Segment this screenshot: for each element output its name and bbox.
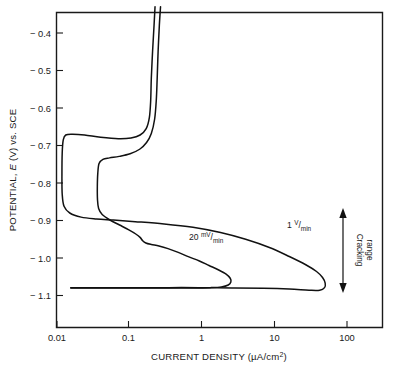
x-axis-tick-labels: 0.01 0.1 1 10 100 [48, 333, 355, 343]
y-tick-label: − 1.0 [30, 254, 51, 264]
y-axis-tick-labels: − 0.4 − 0.5 − 0.6 − 0.7 − 0.8 − 0.9 − 1.… [30, 29, 51, 302]
cracking-range-label-line1: Cracking [355, 234, 365, 267]
curve-label-20mv: 20 mV/min [189, 231, 224, 244]
y-tick-label: − 0.6 [30, 104, 51, 114]
y-tick-label: − 1.1 [30, 291, 51, 301]
y-tick-label: − 0.9 [30, 216, 51, 226]
curve-label-denominator: min [213, 237, 224, 244]
arrow-up-icon [339, 208, 346, 218]
x-tick-label: 100 [339, 333, 355, 343]
y-tick-label: − 0.5 [30, 66, 51, 76]
curve-label-1v: 1 V/min [287, 219, 312, 232]
y-tick-label: − 0.4 [30, 29, 51, 39]
x-axis-ticks [57, 321, 347, 328]
y-tick-label: − 0.7 [30, 141, 51, 151]
x-tick-label: 1 [199, 333, 204, 343]
curve-label-denominator: min [301, 225, 312, 232]
plot-frame [57, 13, 383, 328]
x-tick-label: 10 [269, 333, 279, 343]
svg-text:1 V/min: 1 V/min [287, 219, 312, 232]
x-axis-title: CURRENT DENSITY (µA/cm2) [151, 351, 287, 362]
cracking-range-label-line2: range [365, 239, 375, 261]
y-axis-title: POTENTIAL, E (V) vs. SCE [7, 109, 18, 232]
svg-text:20 mV/min: 20 mV/min [189, 231, 224, 244]
curve-20-mv-per-min [71, 7, 231, 288]
curve-group [62, 7, 325, 291]
x-tick-label: 0.01 [48, 333, 66, 343]
chart-svg: 0.01 0.1 1 10 100 − 0.4 − 0.5 − 0.6 − 0.… [0, 0, 397, 373]
electrochemical-polarization-chart: 0.01 0.1 1 10 100 − 0.4 − 0.5 − 0.6 − 0.… [0, 0, 397, 373]
curve-1-v-per-min [62, 7, 325, 291]
cracking-range-annotation: Cracking range [339, 208, 375, 293]
curve-label-number: 20 [189, 232, 199, 242]
arrow-down-icon [339, 283, 346, 293]
x-tick-label: 0.1 [122, 333, 135, 343]
y-tick-label: − 0.8 [30, 179, 51, 189]
